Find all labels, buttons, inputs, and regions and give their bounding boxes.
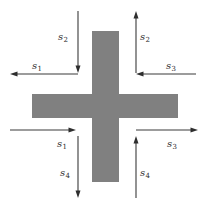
label-subscript: 2 xyxy=(63,36,68,44)
label-subscript: 4 xyxy=(145,172,150,180)
label-s2-right: s2 xyxy=(140,32,150,44)
arrow-top-right-up xyxy=(134,11,139,73)
label-subscript: 4 xyxy=(65,172,70,180)
arrow-head-down xyxy=(76,191,81,199)
cross-flux-figure: s2s2s1s3s1s3s4s4 xyxy=(0,0,206,209)
arrow-lower-left-horizontal xyxy=(10,128,76,133)
label-subscript: 1 xyxy=(37,65,42,73)
arrow-lower-right-horizontal xyxy=(136,128,198,133)
figure-canvas xyxy=(0,0,206,209)
arrow-head-up xyxy=(134,136,139,144)
label-s3-upper: s3 xyxy=(166,61,176,73)
label-s2-left: s2 xyxy=(58,32,68,44)
arrow-head-left xyxy=(136,72,144,77)
arrow-head-left xyxy=(10,72,18,77)
label-subscript: 3 xyxy=(171,65,176,73)
cross-shape-group xyxy=(32,31,178,182)
label-s3-lower: s3 xyxy=(167,139,177,151)
arrow-head-up xyxy=(134,11,139,19)
arrow-top-left-down xyxy=(76,11,81,73)
arrow-bottom-left-down xyxy=(76,136,81,198)
label-subscript: 3 xyxy=(172,143,177,151)
label-s4-right: s4 xyxy=(140,168,150,180)
label-subscript: 1 xyxy=(62,143,67,151)
label-s1-upper: s1 xyxy=(32,61,42,73)
arrow-upper-left-horizontal xyxy=(10,72,78,77)
label-s1-lower: s1 xyxy=(57,139,67,151)
label-subscript: 2 xyxy=(145,36,150,44)
cross-vertical-bar xyxy=(92,31,119,182)
label-s4-left: s4 xyxy=(60,168,70,180)
arrow-head-down xyxy=(76,66,81,74)
arrow-head-right xyxy=(191,128,199,133)
arrow-bottom-right-up xyxy=(134,136,139,198)
arrow-head-right xyxy=(69,128,77,133)
